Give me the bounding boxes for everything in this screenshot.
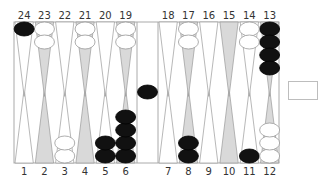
white-checker[interactable] — [75, 35, 95, 49]
point-label-10: 10 — [223, 166, 236, 177]
point-label-24: 24 — [18, 10, 31, 21]
point-label-20: 20 — [99, 10, 112, 21]
point-10[interactable] — [220, 89, 238, 163]
top-point-labels: 242322212019181716151413 — [18, 10, 276, 21]
point-label-4: 4 — [82, 166, 88, 177]
point-9[interactable] — [200, 89, 218, 163]
point-label-5: 5 — [102, 166, 108, 177]
point-label-2: 2 — [41, 166, 47, 177]
point-20[interactable] — [96, 22, 114, 96]
white-checker[interactable] — [260, 136, 280, 150]
white-checker[interactable] — [34, 22, 54, 36]
white-checker[interactable] — [55, 136, 75, 150]
point-label-8: 8 — [185, 166, 191, 177]
black-checker[interactable] — [260, 61, 280, 75]
black-checker[interactable] — [178, 136, 198, 150]
doubling-cube-box[interactable] — [288, 81, 318, 100]
point-label-16: 16 — [202, 10, 215, 21]
point-label-12: 12 — [263, 166, 276, 177]
point-label-15: 15 — [223, 10, 236, 21]
point-label-22: 22 — [58, 10, 71, 21]
point-4[interactable] — [76, 89, 94, 163]
point-label-17: 17 — [182, 10, 195, 21]
point-16[interactable] — [200, 22, 218, 96]
point-label-21: 21 — [79, 10, 92, 21]
white-checker[interactable] — [178, 35, 198, 49]
point-22[interactable] — [56, 22, 74, 96]
black-checker[interactable] — [260, 22, 280, 36]
point-2[interactable] — [35, 89, 53, 163]
white-checker[interactable] — [239, 22, 259, 36]
point-1[interactable] — [15, 89, 33, 163]
point-18[interactable] — [159, 22, 177, 96]
black-checker-on-bar[interactable] — [138, 85, 158, 99]
black-checker[interactable] — [116, 123, 136, 137]
white-checker[interactable] — [178, 22, 198, 36]
white-checker[interactable] — [260, 149, 280, 163]
white-checker[interactable] — [239, 35, 259, 49]
white-checker[interactable] — [34, 35, 54, 49]
point-label-9: 9 — [206, 166, 212, 177]
point-label-14: 14 — [243, 10, 256, 21]
white-checker[interactable] — [116, 35, 136, 49]
black-checker[interactable] — [260, 35, 280, 49]
point-label-7: 7 — [165, 166, 171, 177]
white-checker[interactable] — [260, 123, 280, 137]
point-label-6: 6 — [122, 166, 128, 177]
black-checker[interactable] — [95, 136, 115, 150]
point-label-3: 3 — [62, 166, 68, 177]
black-checker[interactable] — [116, 136, 136, 150]
bottom-point-labels: 123456789101112 — [21, 166, 276, 177]
point-label-11: 11 — [243, 166, 256, 177]
bar[interactable] — [138, 85, 158, 99]
point-label-19: 19 — [119, 10, 132, 21]
black-checker[interactable] — [116, 110, 136, 124]
black-checker[interactable] — [239, 149, 259, 163]
white-checker[interactable] — [75, 22, 95, 36]
point-15[interactable] — [220, 22, 238, 96]
black-checker[interactable] — [95, 149, 115, 163]
point-label-23: 23 — [38, 10, 51, 21]
point-label-1: 1 — [21, 166, 27, 177]
white-checker[interactable] — [116, 22, 136, 36]
black-checker[interactable] — [116, 149, 136, 163]
backgammon-board: 242322212019181716151413 123456789101112 — [0, 0, 321, 187]
point-label-18: 18 — [162, 10, 175, 21]
black-checker[interactable] — [14, 22, 34, 36]
white-checker[interactable] — [55, 149, 75, 163]
black-checker[interactable] — [260, 48, 280, 62]
black-checker[interactable] — [178, 149, 198, 163]
point-7[interactable] — [159, 89, 177, 163]
point-label-13: 13 — [263, 10, 276, 21]
